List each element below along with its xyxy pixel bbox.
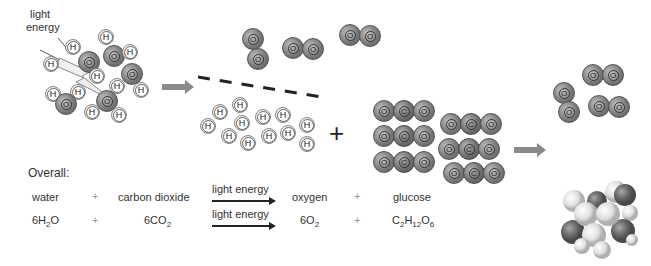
hydrogen-atom: H: [212, 104, 228, 120]
hydrogen-atom: H: [232, 97, 248, 113]
oxygen-atom: O: [438, 138, 460, 160]
hydrogen-atom: H: [84, 104, 100, 120]
hydrogen-atom: H: [299, 117, 315, 133]
oxygen-atom: O: [242, 28, 264, 50]
hydrogen-atom: H: [280, 125, 296, 141]
hydrogen-atom: H: [98, 29, 114, 45]
oxygen-atom: O: [602, 64, 624, 86]
oxygen-atom: O: [478, 138, 500, 160]
carbon-atom: C: [460, 113, 482, 135]
oxygen-atom: O: [339, 24, 361, 46]
carbon-atom: C: [393, 151, 415, 173]
oxygen-atom: O: [558, 101, 580, 123]
hydrogen-atom: H: [122, 44, 138, 60]
oxygen-atom: O: [373, 125, 395, 147]
formula-oxygen: 6O2: [300, 214, 319, 229]
word-reaction-arrow: [212, 200, 270, 202]
overall-heading: Overall:: [28, 166, 69, 180]
formula-water: 6H2O: [32, 214, 59, 229]
carbon-atom: C: [463, 162, 485, 184]
oxygen-atom: O: [483, 162, 505, 184]
word-plus-2: +: [354, 190, 360, 202]
formula-arrow-label: light energy: [212, 208, 269, 220]
plus-sign: +: [329, 118, 344, 149]
hydrogen-atom: H: [65, 39, 81, 55]
formula-plus-1: +: [92, 214, 98, 226]
hydrogen-atom: H: [275, 107, 291, 123]
oxygen-atom: O: [373, 100, 395, 122]
hydrogen-atom: H: [261, 128, 277, 144]
hydrogen-atom: H: [234, 115, 250, 131]
word-plus-1: +: [92, 190, 98, 202]
hydrogen-atom: H: [133, 82, 149, 98]
word-product-oxygen: oxygen: [292, 191, 327, 203]
oxygen-atom: O: [480, 113, 502, 135]
oxygen-atom: O: [588, 95, 610, 117]
oxygen-atom: O: [413, 100, 435, 122]
oxygen-atom: O: [440, 113, 462, 135]
hydrogen-atom: H: [221, 128, 237, 144]
word-arrow-label: light energy: [212, 183, 269, 195]
carbon-atom: C: [393, 125, 415, 147]
oxygen-atom: O: [443, 162, 465, 184]
word-reactant-carbon-dioxide: carbon dioxide: [118, 191, 190, 203]
hydrogen-atom: H: [200, 118, 216, 134]
hydrogen-atom: H: [255, 109, 271, 125]
oxygen-atom: O: [373, 151, 395, 173]
oxygen-atom: O: [247, 48, 269, 70]
hydrogen-atom: H: [299, 136, 315, 152]
reaction-arrow: [514, 147, 538, 153]
hydrogen-atom: H: [89, 68, 105, 84]
word-reactant-water: water: [32, 191, 59, 203]
formula-plus-2: +: [354, 214, 360, 226]
oxygen-atom: O: [608, 96, 630, 118]
word-product-glucose: glucose: [393, 191, 431, 203]
hydrogen-atom: H: [111, 107, 127, 123]
dashed-divider: [198, 74, 334, 102]
oxygen-atom: O: [302, 38, 324, 60]
oxygen-atom: O: [582, 64, 604, 86]
oxygen-atom: O: [413, 125, 435, 147]
glucose-molecule-model: [558, 180, 638, 260]
formula-carbon-dioxide: 6CO2: [144, 214, 171, 229]
carbon-atom: C: [393, 100, 415, 122]
formula-glucose: C2H12O6: [392, 214, 434, 229]
oxygen-atom: O: [413, 151, 435, 173]
oxygen-atom: O: [359, 25, 381, 47]
reaction-arrow: [162, 84, 186, 90]
oxygen-atom: O: [55, 93, 77, 115]
formula-reaction-arrow: [212, 225, 270, 227]
carbon-atom: C: [458, 138, 480, 160]
hydrogen-atom: H: [43, 56, 59, 72]
hydrogen-atom: H: [240, 135, 256, 151]
oxygen-atom: O: [282, 37, 304, 59]
